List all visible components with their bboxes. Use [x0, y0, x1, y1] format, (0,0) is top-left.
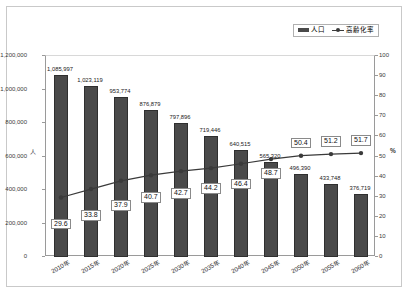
bar-value-label: 565,320 [254, 153, 286, 159]
right-axis-tick-label: 20 [379, 213, 405, 219]
x-axis-tick-label: 2030年 [166, 256, 195, 278]
plot-area [45, 55, 375, 256]
right-axis-tick-label: 90 [379, 72, 405, 78]
x-axis-tick-label: 2060年 [346, 256, 375, 278]
aging-rate-marker [329, 152, 333, 156]
bar [84, 86, 98, 257]
right-axis-tick-label: 70 [379, 112, 405, 118]
aging-rate-value-label: 46.4 [231, 179, 251, 190]
chart-legend: 人口 高齢化率 [293, 24, 379, 37]
legend-entry-population: 人口 [298, 27, 325, 34]
right-axis-tick-label: 0 [379, 253, 405, 259]
right-axis-tickmark [375, 256, 378, 257]
right-axis-tick-label: 10 [379, 233, 405, 239]
bar-value-label: 1,023,119 [74, 77, 106, 83]
right-axis-tickmark [375, 236, 378, 237]
x-axis-tick-label: 2015年 [76, 256, 105, 278]
right-axis-tickmark [375, 196, 378, 197]
aging-rate-value-label: 51.7 [351, 135, 371, 146]
line-marker-swatch-icon [332, 28, 344, 33]
bar-value-label: 433,748 [314, 175, 346, 181]
bar-value-label: 1,085,997 [44, 66, 76, 72]
legend-label-aging-rate: 高齢化率 [346, 27, 374, 34]
x-axis-tick-label: 2025年 [136, 256, 165, 278]
bar [294, 174, 308, 257]
left-axis-tick-label: 600,000 [0, 153, 27, 159]
left-axis-tick-label: 1,000,000 [0, 86, 27, 92]
bar [354, 194, 368, 257]
right-axis-tick-label: 80 [379, 92, 405, 98]
right-axis-tick-label: 60 [379, 132, 405, 138]
aging-rate-value-label: 44.2 [201, 183, 221, 194]
x-axis-tick-label: 2035年 [196, 256, 225, 278]
bar [54, 75, 68, 257]
bar [114, 97, 128, 257]
right-axis-tickmark [375, 156, 378, 157]
aging-rate-value-label: 40.7 [141, 192, 161, 203]
x-axis-tick-label: 2020年 [106, 256, 135, 278]
right-axis-tickmark [375, 75, 378, 76]
aging-rate-value-label: 33.8 [81, 210, 101, 221]
bar [144, 110, 158, 257]
bar [204, 136, 218, 257]
left-axis-tick-label: 1,200,000 [0, 52, 27, 58]
right-axis-tickmark [375, 135, 378, 136]
right-axis-tickmark [375, 115, 378, 116]
bar-swatch-icon [298, 28, 309, 32]
bar-value-label: 719,446 [194, 127, 226, 133]
x-axis-tick-label: 2040年 [226, 256, 255, 278]
aging-rate-value-label: 37.9 [111, 200, 131, 211]
bar-value-label: 640,515 [224, 141, 256, 147]
x-axis-tick-label: 2045年 [256, 256, 285, 278]
bar-value-label: 876,879 [134, 101, 166, 107]
left-axis-tick-label: 800,000 [0, 119, 27, 125]
bar [324, 184, 338, 257]
left-axis-unit: 人 [30, 147, 36, 156]
aging-rate-value-label: 51.2 [321, 136, 341, 147]
x-axis-tick-label: 2010年 [46, 256, 75, 278]
aging-rate-value-label: 29.6 [51, 219, 71, 230]
x-axis-tick-label: 2050年 [286, 256, 315, 278]
aging-rate-value-label: 48.7 [261, 168, 281, 179]
chart-frame: 人口 高齢化率 人 % 1,200,0001,000,000800,000600… [6, 6, 402, 287]
right-axis-tick-label: 50 [379, 153, 405, 159]
right-axis-tickmark [375, 176, 378, 177]
legend-entry-aging-rate: 高齢化率 [332, 27, 374, 34]
bar-value-label: 496,390 [284, 165, 316, 171]
left-axis-tick-label: 0 [0, 253, 27, 259]
aging-rate-marker [359, 151, 363, 155]
left-axis-tick-label: 200,000 [0, 220, 27, 226]
legend-label-population: 人口 [311, 27, 325, 34]
bar-value-label: 953,774 [104, 88, 136, 94]
aging-rate-marker [299, 153, 303, 157]
right-axis-tickmark [375, 55, 378, 56]
x-axis-tick-label: 2055年 [316, 256, 345, 278]
left-axis-tickmark [42, 256, 45, 257]
bar [234, 150, 248, 257]
aging-rate-value-label: 42.7 [171, 188, 191, 199]
right-axis-tick-label: 100 [379, 52, 405, 58]
right-axis-tick-label: 30 [379, 193, 405, 199]
right-axis-tickmark [375, 216, 378, 217]
left-axis-tick-label: 400,000 [0, 186, 27, 192]
aging-rate-value-label: 50.4 [291, 138, 311, 149]
bar-value-label: 376,719 [344, 185, 376, 191]
right-axis-tickmark [375, 95, 378, 96]
bar-value-label: 797,896 [164, 114, 196, 120]
right-axis-tick-label: 40 [379, 173, 405, 179]
